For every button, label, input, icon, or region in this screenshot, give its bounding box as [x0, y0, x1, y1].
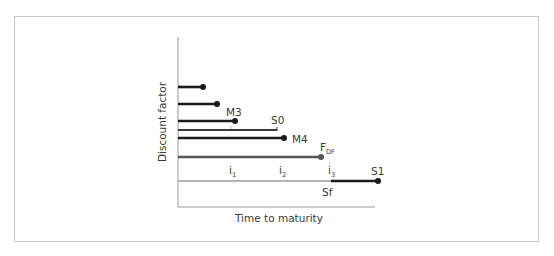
label-m3: M3 [226, 106, 242, 118]
y-axis-title: Discount factor [156, 81, 168, 162]
forward-discount-factor-line: FDF [178, 141, 335, 165]
svg-text:i1: i1 [229, 164, 236, 179]
endpoint-dot [232, 118, 238, 124]
maturity-line-m4: M4 [178, 133, 308, 145]
endpoint-dot [200, 84, 206, 90]
endpoint-dot [281, 135, 287, 141]
label-m4: M4 [292, 133, 308, 145]
interval-marker-i3: i3 [328, 164, 335, 179]
interval-marker-i1: i1 [229, 164, 236, 179]
maturity-line-s1: S1 [331, 165, 384, 184]
label-s1: S1 [371, 165, 384, 177]
label-sf: Sf [322, 186, 333, 198]
maturity-line-m3: M3 [178, 106, 242, 124]
endpoint-dot [214, 101, 220, 107]
svg-text:i2: i2 [279, 164, 286, 179]
endpoint-dot [375, 178, 381, 184]
x-axis-title: Time to maturity [234, 212, 323, 224]
discount-factor-diagram: Discount factor Time to maturity M3 S0 M… [0, 0, 554, 256]
endpoint-dot [318, 154, 324, 160]
interval-marker-i2: i2 [279, 164, 286, 179]
maturity-line-2 [178, 101, 220, 107]
maturity-line-sf: Sf [178, 181, 333, 198]
label-s0: S0 [271, 114, 284, 126]
maturity-line-1 [178, 84, 206, 90]
svg-text:i3: i3 [328, 164, 335, 179]
label-fdf: FDF [320, 141, 335, 156]
